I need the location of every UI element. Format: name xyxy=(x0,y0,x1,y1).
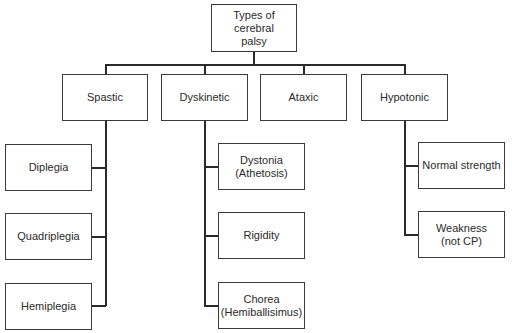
node-dystonia-label: Dystonia (Athetosis) xyxy=(235,154,288,180)
node-dystonia: Dystonia (Athetosis) xyxy=(218,143,305,190)
node-rigidity-label: Rigidity xyxy=(243,229,279,242)
node-spastic-label: Spastic xyxy=(87,91,123,104)
connector-spastic-up xyxy=(105,64,107,74)
node-normal-strength: Normal strength xyxy=(418,142,505,189)
connector-dystonia xyxy=(204,166,218,168)
node-root-label: Types of cerebral palsy xyxy=(233,9,275,48)
node-quadriplegia-label: Quadriplegia xyxy=(17,230,79,243)
connector-ataxic-up xyxy=(303,64,305,74)
node-hemiplegia-label: Hemiplegia xyxy=(21,300,76,313)
connector-spastic-trunk xyxy=(105,121,107,306)
node-diplegia: Diplegia xyxy=(5,144,92,191)
node-chorea-label: Chorea (Hemiballisimus) xyxy=(221,293,302,319)
node-spastic: Spastic xyxy=(62,74,148,121)
connector-quadriplegia xyxy=(92,236,106,238)
node-root: Types of cerebral palsy xyxy=(211,4,297,52)
connector-hypotonic-up xyxy=(404,64,406,74)
connector-weakness xyxy=(404,234,418,236)
node-hypotonic: Hypotonic xyxy=(361,74,448,121)
node-chorea: Chorea (Hemiballisimus) xyxy=(218,282,305,329)
connector-diplegia xyxy=(92,167,106,169)
node-dyskinetic: Dyskinetic xyxy=(161,74,248,121)
connector-normal-strength xyxy=(404,165,418,167)
connector-hemiplegia xyxy=(92,305,106,307)
node-hemiplegia: Hemiplegia xyxy=(5,283,92,330)
node-hypotonic-label: Hypotonic xyxy=(380,91,429,104)
node-dyskinetic-label: Dyskinetic xyxy=(179,91,229,104)
node-ataxic-label: Ataxic xyxy=(289,91,319,104)
node-weakness: Weakness (not CP) xyxy=(418,211,505,258)
connector-rigidity xyxy=(204,235,218,237)
connector-bus xyxy=(105,64,405,66)
node-weakness-label: Weakness (not CP) xyxy=(436,222,487,248)
node-diplegia-label: Diplegia xyxy=(29,161,69,174)
node-quadriplegia: Quadriplegia xyxy=(5,213,92,260)
connector-root-down xyxy=(253,52,255,64)
node-rigidity: Rigidity xyxy=(218,212,305,259)
connector-chorea xyxy=(204,305,218,307)
connector-hypotonic-trunk xyxy=(404,121,406,235)
connector-dyskinetic-up xyxy=(204,64,206,74)
node-ataxic: Ataxic xyxy=(260,74,347,121)
connector-dyskinetic-trunk xyxy=(204,121,206,306)
node-normal-strength-label: Normal strength xyxy=(422,159,500,172)
